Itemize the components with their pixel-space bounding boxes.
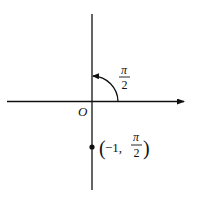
- point-theta-denominator: 2: [134, 146, 140, 160]
- polar-diagram: π 2 O ( −1, π 2 ): [0, 0, 199, 201]
- point-label: ( −1, π 2 ): [99, 130, 150, 160]
- point-r: −1,: [105, 140, 122, 155]
- plotted-point: [89, 144, 94, 149]
- angle-arc: [93, 76, 118, 102]
- origin-label: O: [78, 104, 88, 119]
- point-close-paren: ): [143, 135, 150, 160]
- angle-numerator: π: [121, 63, 128, 77]
- angle-label: π 2: [119, 63, 130, 92]
- point-theta-numerator: π: [133, 130, 140, 144]
- angle-denominator: 2: [122, 78, 128, 92]
